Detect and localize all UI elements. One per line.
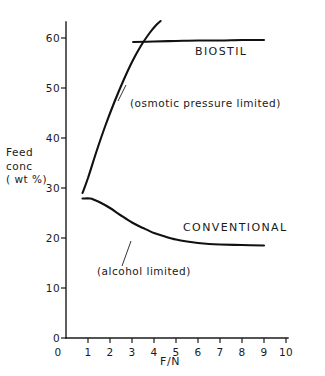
- series-line-biostil-plateau: [133, 40, 264, 42]
- y-axis-title-line-3: ( wt %): [6, 173, 66, 187]
- y-axis-tick-label: 60: [30, 32, 60, 44]
- y-axis-ticks: [61, 38, 66, 338]
- series-label-biostil: BIOSTIL: [195, 45, 247, 58]
- x-axis-ticks: [88, 338, 286, 343]
- y-axis-tick-label: 40: [30, 132, 60, 144]
- x-axis-title: F/N: [160, 355, 180, 368]
- y-axis-title: Feed conc ( wt %): [6, 146, 66, 187]
- y-axis-tick-label: 20: [30, 232, 60, 244]
- x-axis-tick-label: 1: [84, 346, 91, 358]
- x-axis-tick-label: 8: [238, 346, 245, 358]
- x-axis-tick-label: 2: [106, 346, 113, 358]
- series-label-conventional: CONVENTIONAL: [183, 221, 288, 234]
- x-axis-tick-label: 0: [54, 346, 61, 358]
- y-axis-title-line-2: conc: [6, 160, 66, 174]
- x-axis-tick-label: 4: [150, 346, 157, 358]
- annotation-osmotic-pressure-limited: (osmotic pressure limited): [130, 97, 281, 109]
- annotation-alcohol-limited: (alcohol limited): [97, 265, 191, 277]
- x-axis-tick-label: 6: [194, 346, 201, 358]
- x-axis-tick-label: 9: [260, 346, 267, 358]
- x-axis-tick-label: 10: [279, 346, 293, 358]
- x-axis-tick-label: 7: [216, 346, 223, 358]
- y-axis-title-line-1: Feed: [6, 146, 66, 160]
- alcohol-note-leader-line: [122, 241, 131, 266]
- chart-figure: 0102030405060 012345678910 Feed conc ( w…: [0, 0, 325, 376]
- y-axis-tick-label: 10: [30, 282, 60, 294]
- y-axis-tick-label: 0: [30, 332, 60, 344]
- y-axis-tick-label: 50: [30, 82, 60, 94]
- x-axis-tick-label: 3: [128, 346, 135, 358]
